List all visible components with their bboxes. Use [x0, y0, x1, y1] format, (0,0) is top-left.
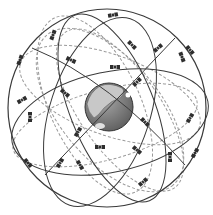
- satellite-icon: [95, 145, 105, 149]
- diagram-canvas: [0, 0, 213, 215]
- satellite-icon: [153, 43, 163, 52]
- satellite-icon: [60, 88, 70, 97]
- gps-constellation-diagram: [0, 0, 213, 215]
- satellite-icon: [17, 96, 28, 104]
- satellite-icon: [186, 113, 194, 124]
- satellite-icon: [138, 177, 148, 186]
- satellite-icon: [28, 112, 32, 122]
- satellite-icon: [191, 148, 199, 159]
- satellite-icon: [168, 152, 172, 162]
- satellite-icon: [108, 12, 119, 18]
- island-small: [126, 93, 131, 98]
- satellite-icon: [16, 55, 23, 66]
- satellite-icon: [140, 117, 150, 127]
- island: [95, 123, 105, 129]
- satellite-icon: [110, 65, 120, 69]
- satellite-icon: [76, 160, 84, 171]
- satellite-icon: [127, 40, 137, 50]
- satellite-icon: [178, 52, 185, 63]
- satellite-icon: [49, 30, 56, 41]
